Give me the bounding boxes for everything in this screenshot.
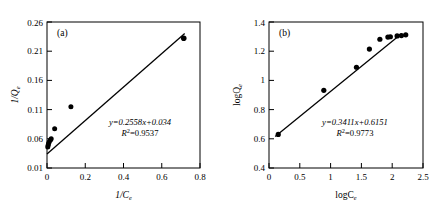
x-tick-label-b-4: 2 (390, 172, 395, 182)
panel-b: 0.4 0.6 0.8 1 1.2 1.4 0 0.5 1 1.5 2 2.5 (221, 0, 442, 213)
x-axis-title-b: logCe (335, 190, 356, 201)
panel-b-plot: 0.4 0.6 0.8 1 1.2 1.4 0 0.5 1 1.5 2 2.5 (221, 0, 442, 213)
panel-tag-a: (a) (57, 28, 68, 39)
y-axis-title-a: 1/Qe (10, 86, 21, 103)
y-tick-label-a-4: 0.21 (27, 46, 43, 56)
y-tick-label-b-0: 0.4 (254, 163, 266, 173)
y-tick-label-b-5: 1.4 (254, 18, 266, 28)
plot-area-frame-a (47, 22, 200, 168)
y-tick-label-b-2: 0.8 (254, 105, 266, 115)
x-tick-label-b-5: 2.5 (417, 172, 429, 182)
fit-line-a (47, 34, 185, 154)
panel-a-plot: 0.01 0.06 0.11 0.16 0.21 0.26 0 0.2 0.4 … (0, 0, 221, 213)
y-tick-label-a-0: 0.01 (27, 163, 43, 173)
x-tick-label-b-1: 0.5 (294, 172, 306, 182)
x-tick-label-a-0: 0 (45, 172, 50, 182)
y-axis-ticks-b (269, 22, 274, 168)
x-tick-label-b-2: 1 (328, 172, 333, 182)
fit-equation-a: y=0.2558x+0.034 (108, 117, 172, 127)
panel-a: 0.01 0.06 0.11 0.16 0.21 0.26 0 0.2 0.4 … (0, 0, 221, 213)
panel-tag-b: (b) (279, 28, 290, 39)
x-tick-label-a-4: 0.8 (194, 172, 206, 182)
y-tick-label-b-3: 1 (261, 75, 266, 85)
fit-equation-b: y=0.3411x+0.6151 (321, 117, 388, 127)
y-tick-label-a-5: 0.26 (27, 18, 43, 28)
fit-r2-b: R2=0.9773 (336, 127, 374, 138)
y-tick-label-a-3: 0.16 (27, 75, 43, 85)
figure-container: 0.01 0.06 0.11 0.16 0.21 0.26 0 0.2 0.4 … (0, 0, 443, 213)
x-axis-title-a: 1/Ce (115, 190, 132, 201)
x-tick-label-b-0: 0 (267, 172, 272, 182)
x-tick-label-a-3: 0.6 (156, 172, 168, 182)
x-axis-ticks-b (269, 163, 423, 168)
y-tick-label-a-1: 0.06 (27, 134, 43, 144)
data-points-a (45, 36, 186, 150)
x-axis-ticks-a (47, 163, 200, 168)
fit-r2-a: R2=0.9537 (121, 127, 160, 138)
y-axis-title-b: logQe (232, 84, 243, 106)
y-tick-label-a-2: 0.11 (28, 105, 43, 115)
x-tick-label-a-1: 0.2 (80, 172, 91, 182)
y-tick-label-b-1: 0.6 (254, 134, 266, 144)
plot-area-frame-b (269, 22, 423, 168)
x-tick-label-b-3: 1.5 (356, 172, 368, 182)
x-tick-label-a-2: 0.4 (118, 172, 130, 182)
y-tick-label-b-4: 1.2 (254, 46, 265, 56)
